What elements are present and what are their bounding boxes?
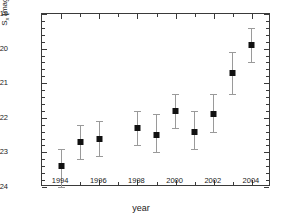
y-tick-minor-right [266, 97, 269, 98]
y-tick-minor-right [266, 56, 269, 57]
x-tick-minor-top [118, 14, 119, 17]
y-tick-minor-right [266, 125, 269, 126]
data-point-marker [154, 132, 160, 138]
y-tick-minor [42, 173, 45, 174]
y-tick-major [42, 118, 47, 119]
x-tick-minor-top [195, 14, 196, 17]
y-tick-minor [42, 90, 45, 91]
x-tick-major-top [61, 14, 62, 19]
y-tick-minor [42, 111, 45, 112]
y-tick-major-right [264, 187, 269, 188]
y-tick-minor [42, 104, 45, 105]
x-tick-label: 2000 [166, 176, 183, 185]
error-bar-cap-upper [96, 121, 103, 122]
y-tick-minor [42, 166, 45, 167]
y-tick-minor-right [266, 145, 269, 146]
data-point-group [228, 52, 237, 94]
data-point-marker [192, 129, 198, 135]
y-tick-label: 24 [0, 182, 8, 191]
error-bar-cap-lower [229, 94, 236, 95]
y-tick-minor [42, 97, 45, 98]
y-tick-minor-right [266, 111, 269, 112]
y-tick-minor-right [266, 35, 269, 36]
x-tick-major-top [214, 14, 215, 19]
error-bar-cap-upper [210, 94, 217, 95]
x-tick-minor [80, 182, 81, 185]
error-bar-cap-lower [134, 145, 141, 146]
data-point-marker [211, 111, 217, 117]
y-tick-major-right [264, 49, 269, 50]
y-tick-minor-right [266, 62, 269, 63]
y-axis-title-symbol: S [0, 20, 9, 25]
x-tick-label: 1996 [90, 176, 107, 185]
y-axis-title-subscript: x [4, 18, 10, 21]
chart-figure: Sx [mag/arcsec2] year 192021222324199419… [0, 0, 282, 223]
y-tick-major-right [264, 118, 269, 119]
error-bar-cap-upper [153, 114, 160, 115]
data-point-marker [230, 70, 236, 76]
x-axis-title: year [0, 203, 282, 213]
y-tick-major [42, 187, 47, 188]
y-tick-major [42, 83, 47, 84]
data-point-group [76, 125, 85, 160]
y-tick-minor [42, 69, 45, 70]
y-tick-label: 22 [0, 112, 8, 121]
error-bar-cap-upper [191, 111, 198, 112]
y-tick-minor [42, 35, 45, 36]
error-bar-cap-upper [58, 149, 65, 150]
y-tick-major [42, 49, 47, 50]
y-tick-minor-right [266, 76, 269, 77]
data-point-marker [58, 163, 64, 169]
data-point-group [171, 94, 180, 129]
x-tick-minor-top [157, 14, 158, 17]
y-tick-major [42, 152, 47, 153]
y-tick-minor-right [266, 69, 269, 70]
x-tick-label: 1998 [128, 176, 145, 185]
data-point-group [95, 121, 104, 156]
y-tick-minor [42, 62, 45, 63]
data-point-group [152, 114, 161, 152]
error-bar-cap-lower [248, 62, 255, 63]
y-tick-minor [42, 125, 45, 126]
y-tick-minor-right [266, 90, 269, 91]
data-point-marker [249, 42, 255, 48]
y-tick-minor [42, 42, 45, 43]
y-tick-minor [42, 28, 45, 29]
data-point-group [209, 94, 218, 132]
plot-area [41, 13, 270, 186]
x-tick-minor [157, 182, 158, 185]
y-tick-minor-right [266, 21, 269, 22]
y-tick-minor-right [266, 28, 269, 29]
y-tick-minor [42, 180, 45, 181]
y-tick-minor-right [266, 132, 269, 133]
y-tick-minor-right [266, 104, 269, 105]
data-point-marker [134, 125, 140, 131]
error-bar-cap-upper [77, 125, 84, 126]
y-tick-major-right [264, 152, 269, 153]
error-bar-cap-upper [172, 94, 179, 95]
y-tick-minor [42, 145, 45, 146]
error-bar-cap-lower [58, 187, 65, 188]
y-tick-minor [42, 132, 45, 133]
x-tick-major-top [99, 14, 100, 19]
data-point-group [133, 111, 142, 146]
y-tick-minor [42, 56, 45, 57]
error-bar-cap-lower [77, 159, 84, 160]
data-point-marker [77, 139, 83, 145]
error-bar-cap-upper [229, 52, 236, 53]
y-tick-minor [42, 21, 45, 22]
y-tick-minor [42, 139, 45, 140]
y-tick-label: 19 [0, 9, 8, 18]
y-tick-label: 21 [0, 78, 8, 87]
error-bar-cap-upper [248, 28, 255, 29]
y-tick-major-right [264, 83, 269, 84]
x-tick-label: 2002 [204, 176, 221, 185]
x-tick-minor-top [233, 14, 234, 17]
data-point-marker [173, 108, 179, 114]
x-tick-major-top [252, 14, 253, 19]
x-tick-minor-top [80, 14, 81, 17]
y-tick-minor-right [266, 180, 269, 181]
y-tick-minor-right [266, 173, 269, 174]
x-tick-label: 1994 [52, 176, 69, 185]
x-tick-major-top [176, 14, 177, 19]
